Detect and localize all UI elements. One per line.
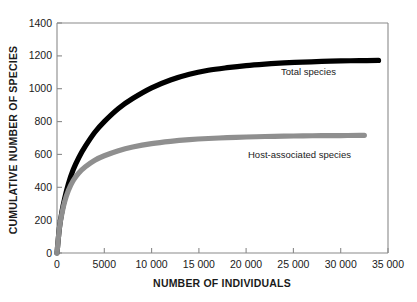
y-tick-label: 1400 (29, 17, 53, 29)
series-annotation-total-species: Total species (281, 66, 336, 77)
y-tick-label: 1200 (29, 49, 53, 61)
y-tick-label: 800 (34, 115, 52, 127)
x-axis-tick-labels: 0 5000 10 000 15 000 20 000 25 000 30 00… (54, 258, 404, 270)
y-axis-tick-labels: 0 200 400 600 800 1000 1200 1400 (29, 17, 53, 259)
x-tick-label: 35 000 (372, 258, 404, 270)
x-axis-ticks (57, 248, 388, 253)
y-tick-label: 600 (34, 148, 52, 160)
x-axis-title: NUMBER OF INDIVIDUALS (153, 277, 291, 289)
y-tick-label: 200 (34, 214, 52, 226)
y-tick-label: 0 (46, 247, 52, 259)
x-tick-label: 20 000 (230, 258, 262, 270)
series-annotation-host-associated-species: Host-associated species (248, 149, 351, 160)
y-tick-label: 1000 (29, 82, 53, 94)
y-tick-label: 400 (34, 181, 52, 193)
origin-marker (54, 250, 59, 255)
x-tick-label: 25 000 (277, 258, 309, 270)
x-tick-label: 15 000 (183, 258, 215, 270)
figure-container: 0 200 400 600 800 1000 1200 1400 0 5000 … (0, 0, 417, 302)
x-tick-label: 5000 (93, 258, 117, 270)
x-tick-label: 30 000 (325, 258, 357, 270)
species-accumulation-chart: 0 200 400 600 800 1000 1200 1400 0 5000 … (0, 0, 417, 302)
x-tick-label: 0 (54, 258, 60, 270)
y-axis-title: CUMULATIVE NUMBER OF SPECIES (7, 46, 19, 235)
x-tick-label: 10 000 (136, 258, 168, 270)
